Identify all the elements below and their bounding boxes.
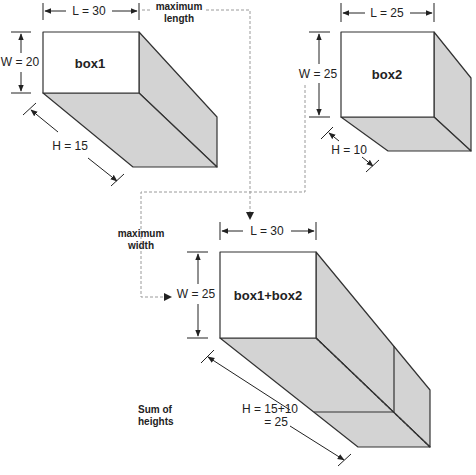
combined-width-label: W = 25: [177, 287, 216, 301]
max-width-arrowhead: [164, 293, 172, 301]
combined-height-label-line2: = 25: [264, 415, 288, 429]
box1-width-label: W = 20: [1, 55, 40, 69]
combined-length-label: L = 30: [250, 224, 284, 238]
max-width-label-line2: width: [127, 240, 154, 251]
box2-width-label: W = 25: [299, 67, 338, 81]
max-length-arrowhead: [246, 212, 254, 220]
sum-heights-label-line2: heights: [138, 416, 174, 427]
box1-label: box1: [75, 56, 105, 71]
box2: [341, 32, 471, 151]
box1-height-label: H = 15: [52, 139, 88, 153]
box-stacking-diagram: box1 L = 30 W = 20 H = 15 box2 L = 25: [0, 0, 476, 475]
max-length-label-line1: maximum: [156, 1, 203, 12]
box2-label: box2: [372, 67, 402, 82]
combined-box: [220, 252, 430, 447]
max-width-label-line1: maximum: [118, 228, 165, 239]
box1-length-label: L = 30: [72, 4, 106, 18]
max-length-label-line2: length: [164, 13, 194, 24]
box2-length-label: L = 25: [370, 6, 404, 20]
box2-height-label: H = 10: [331, 143, 367, 157]
sum-heights-label-line1: Sum of: [138, 404, 173, 415]
combined-label: box1+box2: [234, 288, 302, 303]
combined-height-label-line1: H = 15+10: [242, 402, 298, 416]
